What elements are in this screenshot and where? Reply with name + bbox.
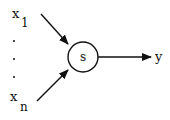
input-x1-arrow: [41, 14, 68, 44]
input-xn-label: x n: [10, 89, 28, 114]
output-y-label: y: [154, 49, 163, 64]
ellipsis-dot: [13, 40, 15, 42]
ellipsis-dot: [13, 76, 15, 78]
input-xn-subscript: n: [20, 100, 28, 114]
neuron-diagram: x 1 x n s y: [0, 0, 170, 120]
input-ellipsis: [13, 40, 15, 78]
node-label: s: [80, 50, 86, 64]
diagram-svg: x 1 x n s y: [0, 0, 170, 120]
ellipsis-dot: [13, 58, 15, 60]
input-x1-symbol: x: [12, 6, 20, 21]
input-xn-symbol: x: [10, 89, 18, 104]
input-xn-arrow: [37, 70, 68, 101]
input-x1-subscript: 1: [21, 16, 29, 30]
input-x1-label: x 1: [12, 6, 29, 30]
